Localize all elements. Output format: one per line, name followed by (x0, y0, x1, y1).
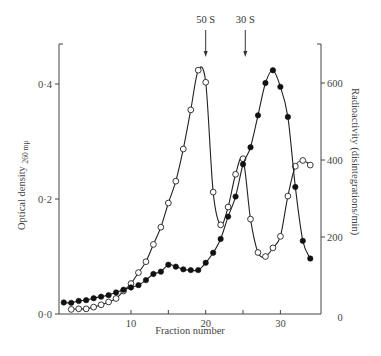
x-tick-label: 30 (275, 318, 286, 329)
filled-circle-marker (121, 287, 126, 292)
open-circle-marker (218, 222, 224, 228)
open-circle-marker (158, 224, 164, 230)
open-circle-marker (91, 304, 97, 310)
arrow-head-icon (204, 51, 208, 57)
filled-circle-marker (203, 260, 208, 265)
open-circle-marker (106, 299, 112, 305)
y-axis-title: Optical density 260 mμ (16, 141, 30, 230)
y2-axis-title: Radioactivity (disintegrations/min) (349, 88, 361, 236)
filled-circle-marker (166, 262, 171, 267)
open-circle-marker (143, 259, 149, 265)
filled-circle-marker (143, 277, 148, 282)
open-circle-marker (210, 189, 216, 195)
filled-circle-marker (98, 294, 103, 299)
y-tick-label: 0·0 (38, 309, 52, 320)
filled-circle-marker (255, 113, 260, 118)
open-circle-marker (173, 178, 179, 184)
sedimentation-markers: 50 S30 S (196, 14, 255, 57)
filled-circle-marker (210, 250, 215, 255)
filled-circle-marker (308, 256, 313, 261)
y-ticks-right: 0200400600 (321, 78, 343, 323)
filled-circle-marker (113, 290, 118, 295)
chart: 102030 0·00·20·4 0200400600 Fraction num… (0, 0, 381, 356)
open-circle-marker (233, 171, 239, 177)
filled-circle-marker (136, 282, 141, 287)
filled-circle-marker (151, 271, 156, 276)
open-circle-marker (278, 233, 284, 239)
open-circle-marker (263, 254, 269, 260)
marker-label: 30 S (236, 14, 255, 25)
plot-area (61, 67, 313, 312)
y2-tick-label: 0 (337, 312, 342, 323)
series-optical-density (68, 67, 313, 312)
filled-circle-marker (225, 214, 230, 219)
series-radioactivity (61, 68, 313, 306)
open-circle-marker (248, 216, 254, 222)
open-circle-marker (307, 162, 313, 168)
filled-circle-marker (263, 80, 268, 85)
open-circle-marker (136, 270, 142, 276)
filled-circle-marker (61, 300, 66, 305)
filled-circle-marker (233, 194, 238, 199)
filled-circle-marker (196, 267, 201, 272)
open-circle-marker (203, 79, 209, 85)
filled-circle-marker (128, 285, 133, 290)
open-circle-marker (255, 250, 261, 256)
filled-circle-marker (83, 297, 88, 302)
open-circle-marker (285, 193, 291, 199)
filled-circle-marker (240, 162, 245, 167)
y-axis-title-sub: 260 mμ (21, 141, 30, 164)
arrow-head-icon (243, 51, 247, 57)
y-tick-label: 0·4 (38, 79, 53, 90)
y-ticks-left: 0·00·20·4 (38, 79, 59, 320)
filled-circle-marker (173, 264, 178, 269)
filled-circle-marker (69, 300, 74, 305)
x-axis-title: Fraction number (155, 325, 225, 336)
y2-tick-label: 400 (327, 155, 343, 166)
open-circle-marker (151, 242, 157, 248)
y2-tick-label: 600 (327, 78, 343, 89)
filled-circle-marker (181, 267, 186, 272)
open-circle-marker (83, 306, 89, 312)
open-circle-marker (300, 158, 306, 164)
filled-circle-marker (158, 269, 163, 274)
open-circle-marker (270, 245, 276, 251)
x-tick-label: 10 (126, 318, 137, 329)
open-circle-marker (98, 302, 104, 308)
open-circle-marker (113, 296, 119, 302)
filled-circle-marker (76, 298, 81, 303)
open-circle-marker (165, 200, 171, 206)
y2-tick-label: 200 (327, 232, 343, 243)
filled-circle-marker (106, 292, 111, 297)
y-axis-title-main: Optical density (16, 165, 27, 230)
filled-circle-marker (248, 145, 253, 150)
filled-circle-marker (270, 68, 275, 73)
filled-circle-marker (300, 238, 305, 243)
open-circle-marker (195, 67, 201, 73)
open-circle-marker (188, 107, 194, 113)
filled-circle-marker (285, 114, 290, 119)
open-circle-marker (180, 146, 186, 152)
series-line (64, 70, 311, 303)
filled-circle-marker (188, 267, 193, 272)
filled-circle-marker (91, 296, 96, 301)
marker-label: 50 S (196, 14, 215, 25)
filled-circle-marker (278, 84, 283, 89)
open-circle-marker (68, 307, 74, 313)
y-tick-label: 0·2 (38, 194, 52, 205)
filled-circle-marker (293, 184, 298, 189)
filled-circle-marker (218, 236, 223, 241)
open-circle-marker (225, 204, 231, 210)
open-circle-marker (76, 306, 82, 312)
